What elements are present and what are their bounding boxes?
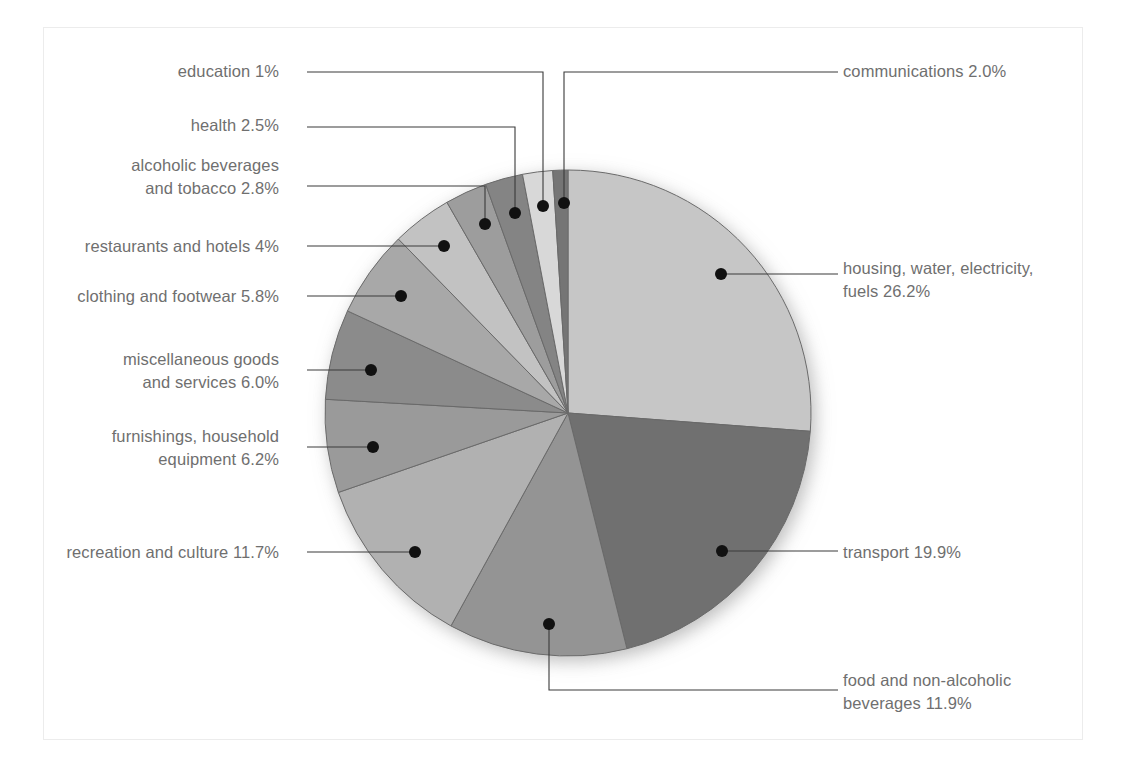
- label-clothing: clothing and footwear 5.8%: [0, 285, 279, 308]
- pie-chart-page: communications 2.0% housing, water, elec…: [0, 0, 1126, 770]
- callout-dot-food: [543, 618, 555, 630]
- callout-dot-communications: [558, 197, 570, 209]
- label-communications: communications 2.0%: [843, 60, 1006, 83]
- label-education: education 1%: [0, 60, 279, 83]
- callout-dot-miscellaneous: [365, 364, 377, 376]
- callout-dot-recreation: [409, 546, 421, 558]
- label-housing: housing, water, electricity, fuels 26.2%: [843, 257, 1034, 303]
- label-alcoholic: alcoholic beverages and tobacco 2.8%: [0, 154, 279, 200]
- callout-dot-health: [509, 207, 521, 219]
- callout-dot-furnishings: [367, 441, 379, 453]
- label-recreation: recreation and culture 11.7%: [0, 541, 279, 564]
- callout-dot-transport: [716, 545, 728, 557]
- callout-dot-restaurants: [438, 240, 450, 252]
- label-furnishings: furnishings, household equipment 6.2%: [0, 425, 279, 471]
- pie-slices: [325, 170, 811, 656]
- label-health: health 2.5%: [0, 114, 279, 137]
- label-transport: transport 19.9%: [843, 541, 961, 564]
- label-restaurants: restaurants and hotels 4%: [0, 235, 279, 258]
- callout-dot-clothing: [395, 290, 407, 302]
- callout-dot-alcoholic: [479, 218, 491, 230]
- label-miscellaneous: miscellaneous goods and services 6.0%: [0, 348, 279, 394]
- label-food: food and non-alcoholic beverages 11.9%: [843, 669, 1011, 715]
- pie-slice: [568, 170, 811, 431]
- callout-dot-housing: [715, 268, 727, 280]
- callout-dot-education: [537, 200, 549, 212]
